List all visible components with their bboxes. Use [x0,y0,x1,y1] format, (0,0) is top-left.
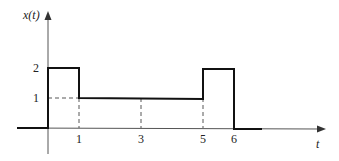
x-axis-label: t [316,137,320,151]
x-tick-1: 1 [76,132,82,146]
x-tick-5: 5 [200,132,206,146]
x-tick-3: 3 [138,132,144,146]
signal-trace [17,68,262,129]
signal-plot: x(t) t 2 1 1 3 5 6 [0,0,339,161]
y-axis-label: x(t) [22,8,40,22]
y-axis-arrow-icon [45,11,52,20]
t-axis [17,128,320,129]
y-tick-2: 2 [33,61,39,75]
t-axis-arrow-icon [317,126,326,133]
x-tick-6: 6 [231,132,237,146]
y-tick-1: 1 [33,91,39,105]
guide-lines [48,98,203,128]
